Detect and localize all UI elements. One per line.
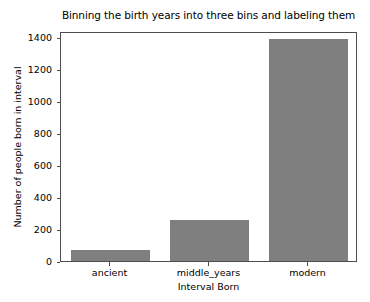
- plot-area: [60, 32, 357, 262]
- y-tick-label: 400: [34, 192, 52, 203]
- y-tick-label: 1000: [28, 96, 52, 107]
- x-tick-label: ancient: [92, 267, 127, 278]
- bar: [71, 250, 150, 261]
- x-tick-label: modern: [289, 267, 326, 278]
- y-tick-label: 200: [34, 224, 52, 235]
- y-tick-label: 0: [46, 256, 52, 267]
- bar-chart-figure: Binning the birth years into three bins …: [0, 0, 370, 302]
- x-tick-label: middle_years: [177, 267, 240, 278]
- x-tick-mark: [208, 262, 209, 266]
- chart-title: Binning the birth years into three bins …: [60, 9, 357, 21]
- x-axis-label: Interval Born: [60, 281, 357, 292]
- y-axis-ticks: 0200400600800100012001400: [0, 32, 60, 262]
- y-tick-label: 600: [34, 160, 52, 171]
- bar: [170, 220, 249, 261]
- y-tick-label: 800: [34, 128, 52, 139]
- x-tick-mark: [307, 262, 308, 266]
- bars-layer: [61, 33, 356, 261]
- y-tick-label: 1400: [28, 32, 52, 43]
- y-tick-label: 1200: [28, 64, 52, 75]
- bar: [269, 39, 348, 261]
- x-tick-mark: [109, 262, 110, 266]
